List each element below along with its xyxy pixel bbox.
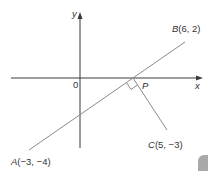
point-a-name: A — [10, 156, 17, 167]
y-axis-arrow-icon — [78, 12, 83, 19]
point-b-coords: (6, 2) — [178, 23, 200, 34]
point-c-coords: (5, −3) — [155, 139, 183, 150]
point-a-label: A(−3, −4) — [10, 156, 51, 167]
point-a-coords: (−3, −4) — [17, 156, 50, 167]
point-p-label: P — [142, 80, 149, 91]
page-corner-tab — [198, 155, 208, 171]
line-pc — [133, 78, 167, 130]
point-c-label: C(5, −3) — [148, 139, 183, 150]
x-axis — [11, 76, 203, 81]
coordinate-diagram: y x 0 B(6, 2) P C(5, −3) A(−3, −4) — [0, 0, 208, 171]
origin-label: 0 — [73, 79, 78, 90]
x-axis-label: x — [194, 80, 201, 91]
right-angle-marker — [127, 83, 138, 90]
y-axis-label: y — [71, 8, 78, 19]
point-b-label: B(6, 2) — [172, 23, 201, 34]
line-ab — [29, 42, 185, 150]
